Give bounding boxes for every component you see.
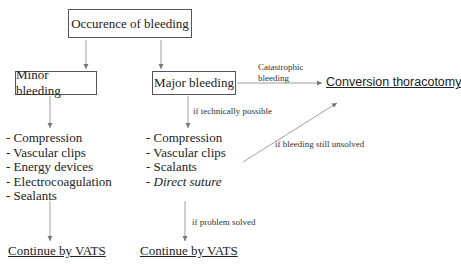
list-item: - Energy devices (6, 160, 112, 175)
condition-bleeding-unsolved: if bleeding still unsolved (275, 139, 364, 149)
minor-bleeding-node: Minor bleeding (15, 71, 97, 95)
list-item: - Sealants (6, 189, 112, 204)
root-label: Occurence of bleeding (71, 16, 189, 32)
list-item: - Compression (6, 131, 112, 146)
root-node: Occurence of bleeding (68, 9, 192, 38)
list-item: - Scalants (146, 160, 226, 175)
condition-technically-possible: if technically possible (193, 106, 272, 116)
major-treatments-list: - Compression - Vascular clips - Scalant… (146, 131, 226, 189)
major-bleeding-label: Major bleeding (154, 75, 234, 91)
list-item: - Vascular clips (146, 146, 226, 161)
catastrophic-label: Catastrophic bleeding (258, 62, 304, 84)
list-item: - Compression (146, 131, 226, 146)
catastrophic-label-line2: bleeding (258, 73, 304, 84)
condition-problem-solved: if problem solved (192, 217, 256, 227)
catastrophic-label-line1: Catastrophic (258, 62, 304, 73)
list-item: - Vascular clips (6, 146, 112, 161)
major-bleeding-node: Major bleeding (152, 71, 236, 95)
list-item: - Electrocoagulation (6, 175, 112, 190)
minor-treatments-list: - Compression - Vascular clips - Energy … (6, 131, 112, 204)
major-outcome-continue-vats: Continue by VATS (140, 243, 238, 259)
conversion-thoracotomy-node: Conversion thoracotomy (326, 75, 461, 89)
list-item: - Direct suture (146, 175, 226, 190)
minor-outcome-continue-vats: Continue by VATS (8, 243, 106, 259)
minor-bleeding-label: Minor bleeding (16, 67, 96, 99)
